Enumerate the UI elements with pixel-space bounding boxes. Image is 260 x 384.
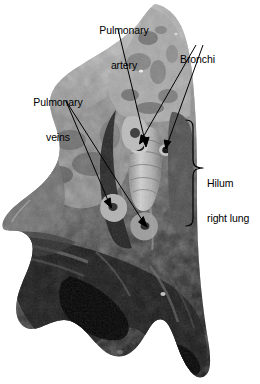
figure-root: Pulmonary artery Bronchi Pulmonary veins… [0,0,260,384]
label-bronchi-line1: Bronchi [180,54,240,66]
label-pulmonary-veins: Pulmonary veins [22,74,94,166]
label-hilum-right-lung: Hilum right lung [207,155,260,247]
label-pulmonary-artery-line1: Pulmonary [88,25,160,37]
hilum-brace [186,120,203,226]
label-pulmonary-artery-line2: artery [88,60,160,72]
label-pulmonary-veins-line2: veins [22,132,94,144]
label-hilum-right-lung-line2: right lung [207,213,260,225]
label-pulmonary-veins-line1: Pulmonary [22,97,94,109]
label-bronchi: Bronchi [180,31,240,89]
label-hilum-right-lung-line1: Hilum [207,178,260,190]
label-pulmonary-artery: Pulmonary artery [88,2,160,94]
